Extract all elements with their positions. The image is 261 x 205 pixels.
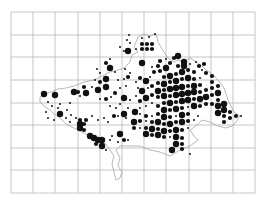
record-dot-medium	[132, 126, 136, 130]
record-dot-medium	[234, 114, 238, 118]
record-dot-small	[151, 115, 153, 117]
record-dot-small	[69, 102, 71, 104]
record-dot-medium	[216, 98, 220, 102]
record-dot-large	[173, 92, 179, 98]
record-dot-large	[95, 87, 101, 93]
record-dot-small	[105, 149, 107, 151]
record-dot-medium	[198, 90, 202, 94]
record-dot-small	[94, 79, 96, 81]
record-dot-large	[173, 106, 179, 112]
record-dot-large	[143, 131, 149, 137]
record-dot-medium	[202, 62, 206, 66]
record-dot-medium	[198, 104, 202, 108]
record-dot-small	[75, 117, 77, 119]
record-dot-medium	[144, 114, 148, 118]
record-dot-small	[135, 81, 137, 83]
record-dot-medium	[145, 42, 149, 46]
record-dot-small	[53, 119, 55, 121]
record-dot-medium	[180, 142, 184, 146]
record-dot-large	[125, 48, 131, 54]
record-dot-large	[203, 94, 209, 100]
record-dot-large	[139, 60, 145, 66]
record-dot-large	[173, 85, 179, 91]
record-dot-medium	[180, 128, 184, 132]
record-dot-small	[119, 103, 121, 105]
record-dot-medium	[216, 84, 220, 88]
record-dot-large	[179, 119, 185, 125]
record-dot-small	[109, 139, 111, 141]
record-dot-small	[117, 79, 119, 81]
record-dot-medium	[94, 142, 98, 146]
record-dot-small	[137, 87, 139, 89]
record-dot-medium	[210, 80, 214, 84]
record-dot-large	[41, 91, 47, 97]
record-dot-large	[179, 98, 185, 104]
record-dot-small	[193, 119, 195, 121]
record-dot-large	[161, 114, 167, 120]
record-dot-medium	[145, 47, 149, 51]
record-dot-small	[51, 105, 53, 107]
record-dot-medium	[156, 127, 160, 131]
record-dot-large	[107, 65, 113, 71]
record-dot-small	[109, 105, 111, 107]
record-dot-medium	[210, 86, 214, 90]
record-dot-small	[141, 37, 143, 39]
record-dot-large	[139, 88, 145, 94]
record-dot-medium	[162, 75, 166, 79]
record-dot-small	[91, 86, 93, 88]
record-dot-large	[103, 76, 109, 82]
record-dot-large	[121, 95, 127, 101]
record-dot-large	[175, 53, 181, 59]
record-dot-small	[57, 107, 59, 109]
record-dot-large	[57, 111, 63, 117]
record-dot-medium	[168, 129, 172, 133]
record-dot-medium	[112, 114, 116, 118]
record-dot-small	[187, 127, 189, 129]
record-dot-large	[181, 63, 187, 69]
record-dot-small	[107, 121, 109, 123]
record-dot-large	[155, 132, 161, 138]
record-dot-small	[151, 102, 153, 104]
record-dot-large	[117, 131, 123, 137]
record-dot-medium	[138, 119, 142, 123]
record-dot-medium	[174, 100, 178, 104]
record-dot-medium	[156, 95, 160, 99]
record-dot-large	[185, 90, 191, 96]
record-dot-large	[161, 107, 167, 113]
record-dot-medium	[168, 115, 172, 119]
record-dot-large	[161, 81, 167, 87]
record-dot-medium	[162, 122, 166, 126]
record-dot-large	[167, 86, 173, 92]
record-dot-medium	[113, 91, 117, 95]
record-dot-small	[79, 95, 81, 97]
record-dot-small	[114, 71, 116, 73]
record-dot-small	[117, 141, 119, 143]
record-dot-medium	[138, 99, 142, 103]
record-dot-medium	[168, 108, 172, 112]
record-dot-large	[132, 109, 138, 115]
record-dot-medium	[228, 110, 232, 114]
record-dot-small	[117, 115, 119, 117]
record-dot-small	[201, 69, 203, 71]
record-dot-small	[99, 72, 101, 74]
record-dot-small	[123, 78, 125, 80]
record-dot-medium	[84, 118, 88, 122]
record-dot-small	[119, 46, 121, 48]
record-dot-small	[111, 135, 113, 137]
record-dot-small	[110, 96, 112, 98]
record-dot-small	[91, 115, 93, 117]
record-dot-medium	[126, 75, 130, 79]
record-dot-medium	[180, 136, 184, 140]
record-dot-small	[169, 136, 171, 138]
record-dot-medium	[78, 118, 82, 122]
record-dot-medium	[150, 93, 154, 97]
record-dot-medium	[186, 68, 190, 72]
record-dot-small	[129, 99, 131, 101]
record-dot-small	[70, 114, 72, 116]
record-dot-medium	[186, 112, 190, 116]
record-dot-medium	[82, 128, 86, 132]
record-dot-small	[126, 39, 128, 41]
record-dot-large	[163, 65, 169, 71]
record-dot-small	[197, 115, 199, 117]
record-dot-medium	[140, 47, 144, 51]
